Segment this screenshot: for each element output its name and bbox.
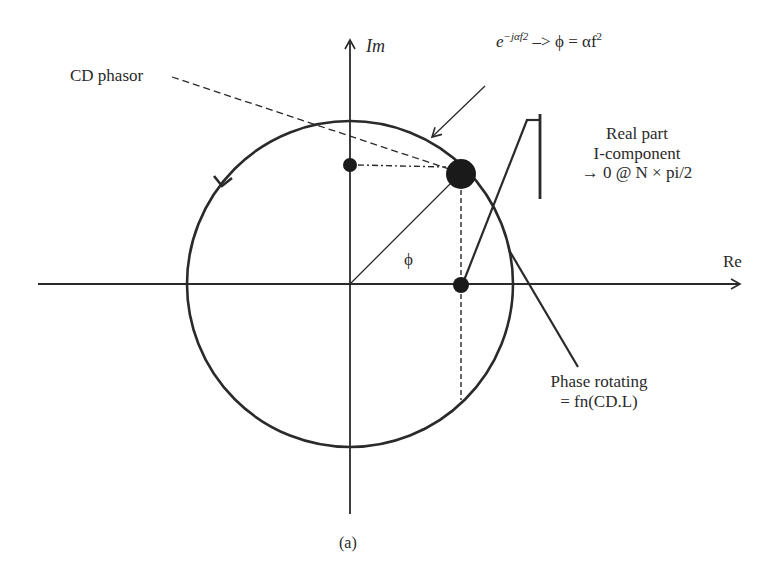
- formula-rest: –> ϕ = αf: [528, 32, 596, 51]
- formula-base: e: [496, 32, 504, 51]
- formula-pointer-arrow: [432, 86, 485, 137]
- phase-rotating-line2: = fn(CD.L): [534, 392, 664, 412]
- formula-label: e−jαf2 –> ϕ = αf2: [496, 30, 602, 51]
- cd-phasor-label: CD phasor: [70, 66, 143, 86]
- phase-rotating-line1: Phase rotating: [534, 372, 664, 392]
- phasor-radius: [350, 182, 452, 284]
- phasor-diagram: [0, 0, 778, 585]
- real-part-leader: [463, 120, 527, 283]
- phi-angle-label: ϕ: [404, 250, 413, 270]
- formula-exponent: −jαf2: [504, 30, 529, 42]
- phase-rotating-annotation: Phase rotating = fn(CD.L): [534, 372, 664, 411]
- real-component-dot: [453, 277, 469, 293]
- figure-caption: (a): [339, 534, 357, 552]
- im-axis-label: Im: [366, 36, 385, 57]
- imag-projection: [358, 165, 446, 167]
- re-axis-label: Re: [723, 252, 742, 272]
- real-part-annotation: Real part I-component → 0 @ N × pi/2: [562, 124, 712, 183]
- real-part-line1: Real part: [562, 124, 712, 144]
- phase-rotating-leader: [509, 250, 578, 367]
- imag-component-dot: [343, 158, 357, 172]
- real-part-line2: I-component: [562, 144, 712, 164]
- formula-rest-exponent: 2: [597, 30, 603, 42]
- cd-phasor-leader: [172, 77, 452, 170]
- real-part-line3: → 0 @ N × pi/2: [562, 163, 712, 183]
- phasor-dot: [446, 159, 476, 189]
